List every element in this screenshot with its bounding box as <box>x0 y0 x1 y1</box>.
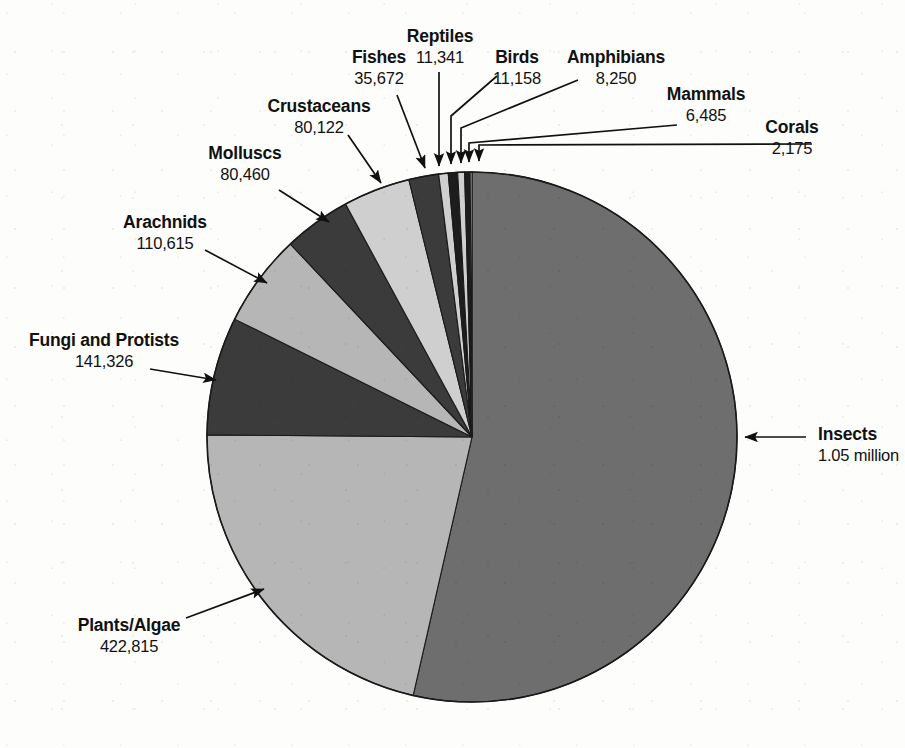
label-amphibians-name: Amphibians <box>562 47 670 68</box>
label-corals: Corals 2,175 <box>757 117 827 158</box>
pie-chart-figure: Insects 1.05 million Plants/Algae 422,81… <box>0 0 905 748</box>
label-birds-value: 11,158 <box>486 68 548 88</box>
label-amphibians-value: 8,250 <box>562 68 670 88</box>
label-mammals-name: Mammals <box>663 84 749 105</box>
label-fishes-value: 35,672 <box>346 68 412 88</box>
label-molluscs-value: 80,460 <box>206 164 284 184</box>
label-fishes-name: Fishes <box>346 47 412 68</box>
label-fungi-protists-name: Fungi and Protists <box>24 330 184 351</box>
leader-birds <box>451 76 497 164</box>
leader-plants-algae <box>186 589 264 618</box>
label-plants-algae-value: 422,815 <box>70 636 188 656</box>
label-birds-name: Birds <box>486 47 548 68</box>
leader-crustaceans <box>348 135 381 183</box>
label-arachnids: Arachnids 110,615 <box>123 212 207 253</box>
label-plants-algae-name: Plants/Algae <box>70 615 188 636</box>
label-arachnids-name: Arachnids <box>123 212 207 233</box>
label-mammals-value: 6,485 <box>663 105 749 125</box>
label-reptiles: Reptiles 11,341 <box>404 26 476 67</box>
label-mammals: Mammals 6,485 <box>663 84 749 125</box>
label-fishes: Fishes 35,672 <box>346 47 412 88</box>
label-birds: Birds 11,158 <box>486 47 548 88</box>
label-crustaceans-value: 80,122 <box>265 117 373 137</box>
label-corals-value: 2,175 <box>757 138 827 158</box>
label-insects-value: 1.05 million <box>818 445 899 465</box>
leader-arachnids <box>205 250 267 283</box>
label-molluscs-name: Molluscs <box>206 143 284 164</box>
label-arachnids-value: 110,615 <box>123 233 207 253</box>
label-insects-name: Insects <box>818 424 899 445</box>
label-crustaceans-name: Crustaceans <box>265 96 373 117</box>
leader-fishes <box>397 95 425 168</box>
leader-molluscs <box>279 190 329 222</box>
leader-mammals <box>469 125 677 162</box>
label-insects: Insects 1.05 million <box>818 424 899 465</box>
pie-slices-group <box>207 172 737 702</box>
label-fungi-protists: Fungi and Protists 141,326 <box>24 330 184 371</box>
label-amphibians: Amphibians 8,250 <box>562 47 670 88</box>
label-reptiles-name: Reptiles <box>404 26 476 47</box>
label-plants-algae: Plants/Algae 422,815 <box>70 615 188 656</box>
label-reptiles-value: 11,341 <box>404 47 476 67</box>
label-corals-name: Corals <box>757 117 827 138</box>
label-molluscs: Molluscs 80,460 <box>206 143 284 184</box>
label-crustaceans: Crustaceans 80,122 <box>265 96 373 137</box>
label-fungi-protists-value: 141,326 <box>24 351 184 371</box>
